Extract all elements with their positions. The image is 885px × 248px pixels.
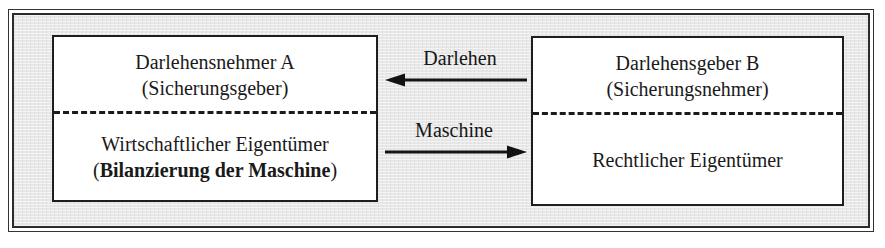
borrower-legal-role-section: Darlehensnehmer A (Sicherungsgeber) [54, 37, 376, 112]
diagram-figure: Darlehensnehmer A (Sicherungsgeber) Wirt… [0, 0, 885, 248]
flow-machine-arrow [385, 145, 527, 161]
borrower-subtitle: (Sicherungsgeber) [142, 75, 289, 101]
lender-subtitle: (Sicherungsnehmer) [606, 76, 768, 102]
entity-box-borrower: Darlehensnehmer A (Sicherungsgeber) Wirt… [52, 35, 378, 202]
borrower-ownership-label: Wirtschaftlicher Eigentümer [101, 131, 328, 157]
flow-loan-arrow [385, 73, 527, 89]
borrower-accounting-note: (Bilanzierung der Maschine) [93, 157, 337, 183]
arrow-left-icon [385, 73, 527, 87]
lender-title: Darlehensgeber B [616, 50, 760, 76]
borrower-accounting-emphasis: Bilanzierung der Maschine [100, 159, 331, 181]
paren-open: ( [93, 159, 100, 181]
lender-legal-role-section: Darlehensgeber B (Sicherungsnehmer) [533, 38, 842, 113]
lender-ownership-label: Rechtlicher Eigentümer [592, 147, 782, 173]
flow-loan-label: Darlehen [393, 46, 527, 70]
entity-box-lender: Darlehensgeber B (Sicherungsnehmer) Rech… [531, 36, 844, 206]
flow-loan: Darlehen [385, 46, 527, 89]
flow-machine: Maschine [385, 118, 527, 161]
borrower-title: Darlehensnehmer A [135, 49, 294, 75]
flow-machine-label: Maschine [381, 118, 527, 142]
borrower-ownership-section: Wirtschaftlicher Eigentümer (Bilanzierun… [54, 114, 376, 200]
lender-ownership-section: Rechtlicher Eigentümer [533, 115, 842, 204]
paren-close: ) [330, 159, 337, 181]
arrow-right-icon [385, 145, 527, 159]
